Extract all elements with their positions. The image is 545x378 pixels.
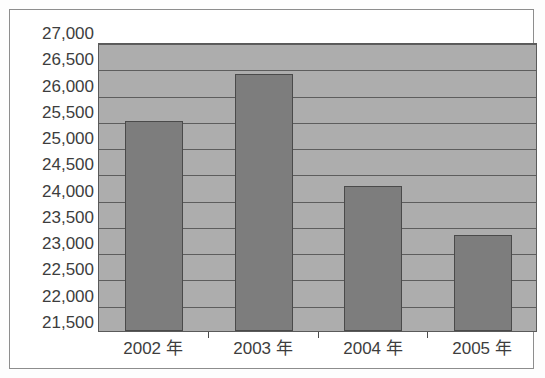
bar	[125, 121, 183, 331]
y-axis-tick-label: 25,500	[10, 104, 94, 121]
y-axis-tick-label: 27,000	[10, 25, 94, 42]
x-axis-ticks	[98, 332, 537, 339]
y-axis: 27,00026,50026,00025,50025,00024,50024,0…	[10, 10, 94, 378]
y-axis-tick-label: 24,000	[10, 183, 94, 200]
chart-figure: 27,00026,50026,00025,50025,00024,50024,0…	[0, 0, 545, 378]
x-axis-tick	[318, 332, 319, 338]
y-axis-tick-label: 23,500	[10, 209, 94, 226]
y-axis-tick-label: 21,500	[10, 314, 94, 331]
y-axis-tick-label: 26,000	[10, 78, 94, 95]
x-axis-tick	[208, 332, 209, 338]
y-axis-tick-label: 24,500	[10, 156, 94, 173]
y-axis-tick-label: 22,500	[10, 261, 94, 278]
y-axis-tick-label: 22,000	[10, 288, 94, 305]
bar	[454, 235, 512, 331]
x-axis-tick-label: 2002 年	[98, 339, 208, 359]
gridline	[99, 44, 536, 45]
gridline	[99, 70, 536, 71]
bar	[344, 186, 402, 331]
x-axis-tick-label: 2003 年	[208, 339, 318, 359]
x-axis-tick-label: 2005 年	[427, 339, 537, 359]
y-axis-tick-label: 26,500	[10, 51, 94, 68]
plot-area	[98, 43, 537, 332]
y-axis-tick-label: 23,000	[10, 235, 94, 252]
bar	[235, 74, 293, 331]
y-axis-tick-label: 25,000	[10, 130, 94, 147]
chart-frame: 27,00026,50026,00025,50025,00024,50024,0…	[9, 9, 534, 369]
x-axis-tick	[427, 332, 428, 338]
gridline	[99, 97, 536, 98]
x-axis: 2002 年2003 年2004 年2005 年	[98, 339, 537, 365]
x-axis-tick-label: 2004 年	[318, 339, 428, 359]
